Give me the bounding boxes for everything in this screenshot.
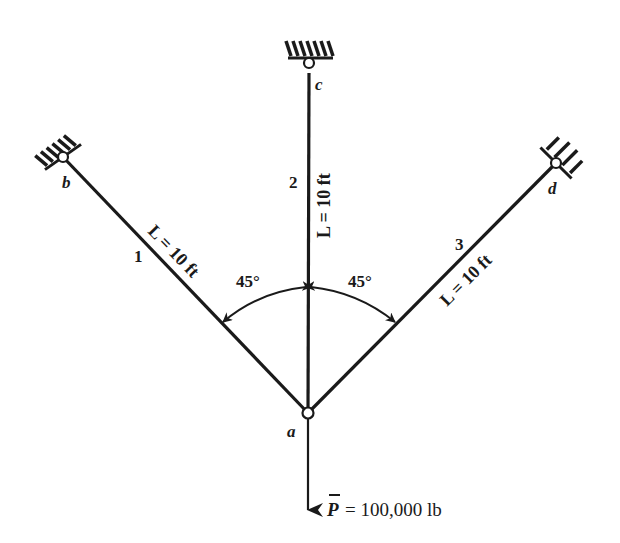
length-label-3: L = 10 ft — [436, 250, 496, 310]
member-2 — [308, 73, 309, 413]
pin-c — [304, 58, 314, 68]
diagram-svg: c b d a 1 2 3 L = 10 ft L = 10 ft L = 10… — [0, 0, 620, 543]
member-number-3: 3 — [455, 235, 464, 254]
truss-diagram: c b d a 1 2 3 L = 10 ft L = 10 ft L = 10… — [0, 0, 620, 543]
node-label-a: a — [287, 422, 296, 441]
member-number-2: 2 — [289, 173, 298, 192]
member-1 — [63, 157, 308, 413]
node-label-c: c — [315, 75, 323, 94]
angle-label-right: 45° — [348, 272, 372, 291]
node-label-d: d — [548, 179, 557, 198]
member-3 — [308, 163, 556, 413]
support-b — [35, 130, 81, 169]
angle-arc-left — [223, 287, 306, 322]
support-c — [286, 41, 333, 58]
node-label-b: b — [62, 173, 71, 192]
length-label-2: L = 10 ft — [314, 173, 334, 238]
load-symbol: P — [326, 499, 339, 520]
load-value: = 100,000 lb — [345, 499, 442, 520]
pin-b — [58, 152, 68, 162]
angle-arc-right — [311, 287, 395, 322]
member-number-1: 1 — [134, 247, 143, 266]
pin-a — [303, 408, 314, 419]
angle-label-left: 45° — [236, 272, 260, 291]
pin-d — [551, 158, 561, 168]
